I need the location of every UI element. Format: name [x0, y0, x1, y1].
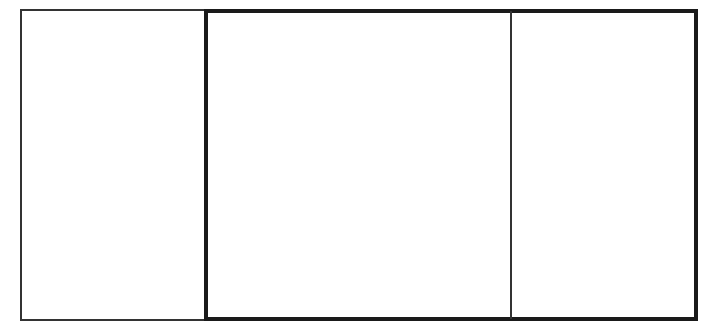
left-panel [20, 9, 207, 321]
main-panel-thick-border [204, 9, 698, 321]
vertical-divider-line [510, 11, 512, 319]
